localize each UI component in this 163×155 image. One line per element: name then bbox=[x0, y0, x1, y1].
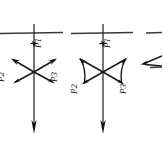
panel-3-horizontal-reference-line bbox=[146, 33, 162, 34]
figure-root: P1 P2 P3 P1 bbox=[0, 0, 162, 155]
panel-1-vector-upleft bbox=[14, 60, 35, 72]
panel-2-label-p3: P3 bbox=[118, 84, 128, 95]
force-diagram-svg: P1 P2 P3 P1 bbox=[0, 0, 162, 155]
panel-1: P1 P2 P3 bbox=[0, 24, 63, 134]
panel-2-label-p1: P1 bbox=[102, 38, 112, 49]
panel-3-vector-left-lower bbox=[145, 65, 162, 67]
panel-1-horizontal-reference-line bbox=[0, 33, 63, 34]
panel-2-label-p2: P2 bbox=[69, 84, 79, 95]
panel-2: P1 P2 P3 bbox=[69, 24, 133, 134]
panel-2-curve-right-arrowhead bbox=[119, 58, 127, 66]
panel-3 bbox=[141, 33, 163, 68]
panel-2-curve-left-arrowhead bbox=[80, 58, 88, 66]
panel-1-vector-upright bbox=[34, 60, 55, 72]
panel-2-vector-downright-p3 bbox=[103, 72, 122, 83]
panel-2-horizontal-reference-line bbox=[71, 33, 133, 34]
panel-1-label-p2: P2 bbox=[0, 72, 6, 83]
panel-1-vector-upleft-arrowhead bbox=[11, 59, 20, 65]
panel-1-vector-downleft-p2 bbox=[16, 72, 35, 82]
panel-1-label-p1: P1 bbox=[33, 38, 43, 49]
panel-2-vector-downleft-p2 bbox=[84, 72, 103, 83]
panel-3-lower-reference-line bbox=[150, 67, 162, 68]
panel-1-label-p3: P3 bbox=[49, 72, 59, 83]
panel-1-vector-upright-arrowhead bbox=[48, 59, 57, 65]
